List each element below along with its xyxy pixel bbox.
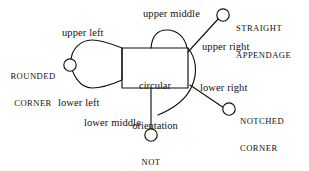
rounded-corner-node: [64, 59, 76, 71]
straight-appendage-line-2: APPENDAGE: [236, 51, 306, 60]
not-concave-line-1: NOT: [122, 158, 180, 167]
shape-structure-diagram: circular orientation upper left upper mi…: [0, 0, 309, 171]
left-blob-outline: [71, 40, 122, 88]
rounded-corner-line-2: CORNER: [2, 99, 64, 108]
part-label-lower-left: lower left: [58, 97, 100, 108]
part-label-upper-left: upper left: [62, 27, 104, 38]
part-label-upper-middle: upper middle: [143, 8, 200, 19]
property-label-notched-corner: NOTCHED CORNER: [240, 99, 306, 171]
upper-middle-arc: [151, 30, 187, 48]
property-label-straight-appendage: STRAIGHT APPENDAGE: [236, 6, 306, 78]
center-label-line-1: circular: [124, 79, 186, 92]
rounded-corner-line-1: ROUNDED: [2, 72, 64, 81]
straight-appendage-node: [217, 9, 229, 21]
part-label-lower-middle: lower middle: [84, 117, 141, 128]
notched-corner-node: [223, 103, 235, 115]
notched-corner-line-2: CORNER: [240, 144, 306, 153]
straight-appendage-line-1: STRAIGHT: [236, 24, 306, 33]
property-label-not-concave: NOT CONCAVE: [122, 140, 180, 171]
property-label-rounded-corner: ROUNDED CORNER: [2, 54, 64, 126]
notched-corner-line-1: NOTCHED: [240, 117, 306, 126]
part-label-lower-right: lower right: [200, 82, 247, 93]
